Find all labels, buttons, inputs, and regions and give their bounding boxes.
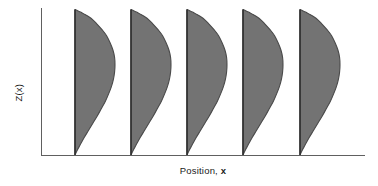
x-axis-label-variable: x [221,165,226,176]
y-axis-label: Z(x) [5,0,33,186]
distribution-curve [131,10,171,156]
x-axis-label: Position, x [41,166,365,176]
plot-area [0,0,378,186]
figure-container: Z(x) Position, x [0,0,378,186]
distribution-curve [75,10,115,156]
y-axis-label-text: Z(x) [14,84,24,102]
distribution-curve [243,10,283,156]
distribution-curve [300,10,340,156]
distribution-curve [187,10,227,156]
distribution-group [75,10,340,156]
x-axis-label-prefix: Position, [180,165,221,176]
